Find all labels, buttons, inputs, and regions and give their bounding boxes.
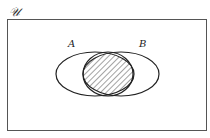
set-a-label: A [67, 38, 75, 49]
set-b-label: B [138, 38, 146, 49]
universe-label: 𝒰 [9, 5, 23, 19]
venn-diagram: 𝒰 A B [0, 0, 210, 138]
